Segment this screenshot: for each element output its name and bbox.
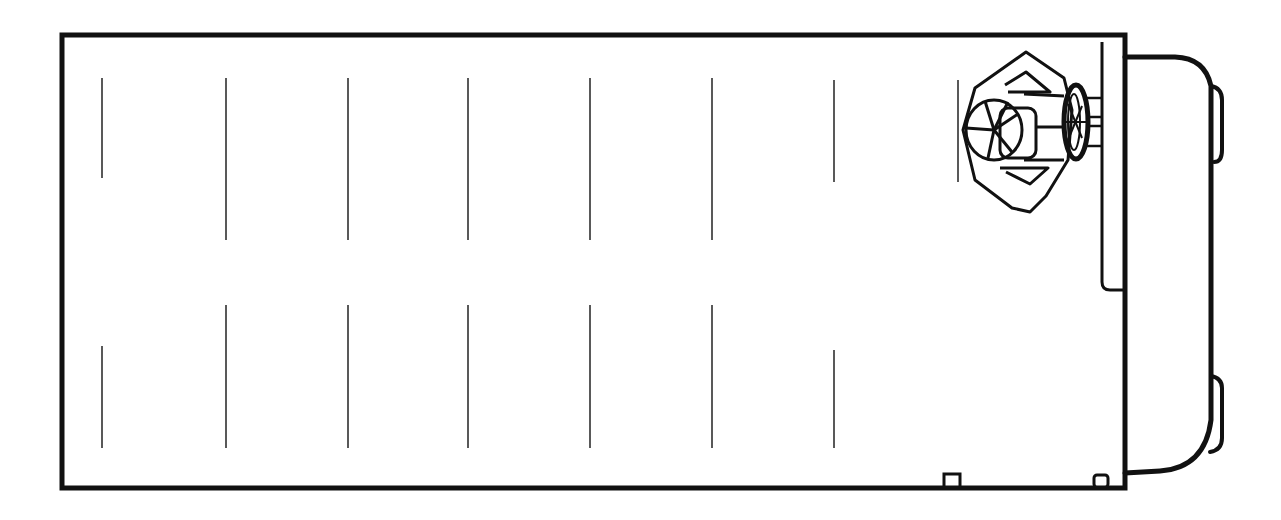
- seat-markers-top: [102, 78, 958, 240]
- dashboard-panel: [1102, 42, 1123, 290]
- vehicle-body-outline: [62, 35, 1125, 488]
- seat-markers-bottom: [102, 305, 834, 448]
- driver-seat-icon: [963, 52, 1072, 212]
- steering-wheel-icon: [1064, 85, 1102, 159]
- door-step-icon: [944, 474, 1108, 487]
- driver-head-icon: [966, 100, 1022, 160]
- vehicle-diagram: [0, 0, 1281, 520]
- vehicle-cab: [1125, 57, 1222, 473]
